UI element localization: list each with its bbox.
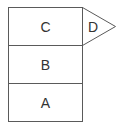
stack-diagram: C B A D [0, 0, 120, 127]
block-b-label: B [41, 57, 50, 73]
pointer-d: D [83, 8, 116, 46]
block-a: A [9, 84, 83, 122]
block-c-label: C [40, 19, 50, 35]
block-c: C [9, 8, 83, 46]
block-a-label: A [41, 95, 51, 111]
block-b: B [9, 46, 83, 84]
pointer-d-label: D [88, 19, 98, 35]
